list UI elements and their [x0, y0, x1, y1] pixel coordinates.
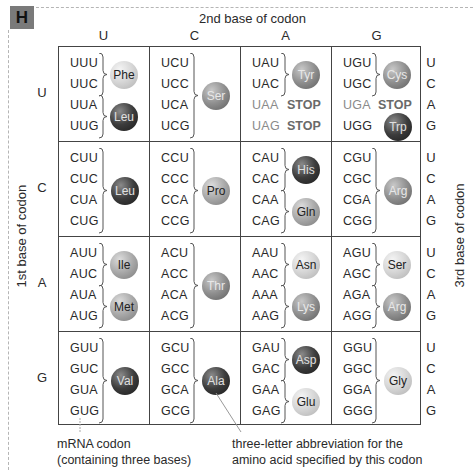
codon-caption: mRNA codon (containing three bases) — [57, 436, 191, 468]
pointer-lines — [0, 0, 473, 472]
amino-acid-caption-line1: three-letter abbreviation for the — [232, 436, 422, 452]
amino-acid-caption: three-letter abbreviation for the amino … — [232, 436, 422, 468]
codon-caption-line2: (containing three bases) — [57, 452, 191, 468]
amino-acid-caption-line2: amino acid specified by this codon — [232, 452, 422, 468]
amino-acid-pointer-line — [216, 393, 241, 432]
codon-caption-line1: mRNA codon — [57, 436, 191, 452]
